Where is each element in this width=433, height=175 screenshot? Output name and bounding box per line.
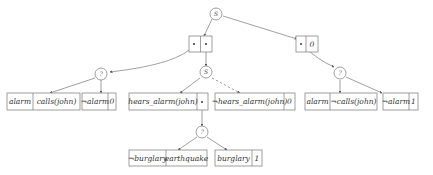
svg-text:burglary: burglary: [217, 154, 250, 163]
svg-text:hears_alarm(john): hears_alarm(john): [128, 97, 197, 106]
svg-text:1: 1: [411, 97, 416, 106]
node-right-choice: ?: [334, 67, 346, 79]
svg-text:earthquake: earthquake: [165, 154, 209, 163]
leaf-not-alarm-1: ¬alarm 1: [382, 93, 418, 110]
edges: [50, 16, 382, 150]
node-left-choice: ?: [95, 68, 107, 80]
pair-top-right: 0: [296, 36, 318, 52]
svg-text:S: S: [214, 10, 218, 17]
leaf-not-hears-alarm: ¬hears_alarm(john) 0: [212, 93, 295, 110]
svg-text:calls(john): calls(john): [37, 97, 77, 106]
leaf-not-alarm-0: ¬alarm 0: [81, 93, 116, 110]
svg-text:0: 0: [310, 40, 315, 49]
leaf-burglary-1: burglary 1: [215, 150, 262, 166]
svg-text:1: 1: [255, 154, 260, 163]
node-low-choice: ?: [196, 126, 208, 138]
svg-text:alarm: alarm: [306, 97, 328, 106]
leaf-hears-alarm: hears_alarm(john): [128, 93, 208, 110]
node-root: S: [210, 8, 222, 20]
svg-text:alarm: alarm: [9, 97, 31, 106]
svg-text:¬calls(john): ¬calls(john): [331, 97, 377, 106]
svg-text:¬alarm: ¬alarm: [382, 97, 410, 106]
pair-top-left: [189, 36, 212, 52]
decision-tree-diagram: S ? S ? ? 0 alarm calls(john) ¬alarm: [0, 0, 433, 175]
svg-text:¬burglary: ¬burglary: [128, 154, 168, 163]
svg-text:S: S: [204, 68, 208, 75]
leaf-not-burglary-earthquake: ¬burglary earthquake: [128, 150, 209, 166]
svg-text:0: 0: [110, 97, 115, 106]
svg-text:¬alarm: ¬alarm: [81, 97, 109, 106]
svg-text:¬hears_alarm(john): ¬hears_alarm(john): [212, 97, 288, 106]
node-mid-choice: S: [200, 66, 212, 78]
leaf-alarm-calls: alarm calls(john): [7, 93, 80, 110]
leaf-alarm-not-calls: alarm ¬calls(john): [305, 93, 377, 110]
svg-text:0: 0: [287, 97, 292, 106]
